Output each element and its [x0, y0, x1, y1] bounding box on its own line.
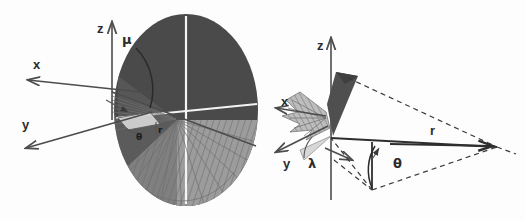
axis-label-y-right: y — [283, 156, 291, 171]
r-label-right: r — [430, 123, 435, 138]
axis-label-x-left: x — [33, 57, 41, 72]
figure-root: z x y μ θ — [0, 0, 525, 220]
r-label-left: r — [158, 125, 163, 135]
figure-background — [0, 0, 525, 220]
mu-angle-label: μ — [122, 32, 132, 47]
theta-angle-label-right: θ — [393, 156, 402, 171]
axis-label-x-right: x — [281, 94, 289, 109]
scientific-figure: z x y μ θ — [0, 0, 525, 220]
theta-angle-label-left: θ — [136, 132, 142, 142]
lambda-angle-label: λ — [308, 156, 316, 171]
axis-label-z-right: z — [317, 38, 324, 53]
axis-label-y-left: y — [22, 117, 30, 132]
axis-label-z-left: z — [97, 21, 104, 36]
